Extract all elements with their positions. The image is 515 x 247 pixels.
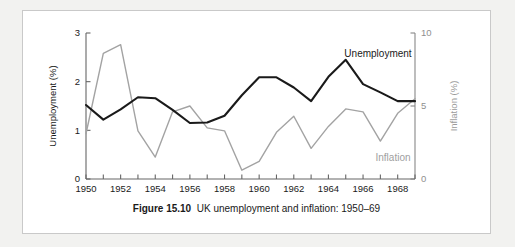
left-tick-label: 1 <box>75 125 80 136</box>
inflation-series-label: Inflation <box>375 152 410 163</box>
x-tick-label: 1958 <box>214 183 235 194</box>
right-tick-label: 5 <box>421 100 426 111</box>
x-axis-ticks <box>86 175 415 180</box>
left-tick-label: 3 <box>75 27 80 38</box>
x-tick-label: 1960 <box>249 183 270 194</box>
x-tick-label: 1962 <box>283 183 304 194</box>
left-axis-tick-labels: 0123 <box>75 27 80 184</box>
x-tick-label: 1956 <box>179 183 200 194</box>
unemployment-line <box>86 60 415 123</box>
x-tick-label: 1966 <box>352 183 373 194</box>
x-tick-label: 1968 <box>387 183 408 194</box>
x-tick-label: 1954 <box>145 183 166 194</box>
right-tick-label: 10 <box>421 27 432 38</box>
right-tick-label: 0 <box>421 173 426 184</box>
inflation-line <box>86 45 415 171</box>
y2-axis-title: Inflation (%) <box>448 81 459 132</box>
figure-caption: Figure 15.10 UK unemployment and inflati… <box>23 203 490 214</box>
figure-card: 0123 0510 195019521954195619581960196219… <box>22 10 491 234</box>
right-axis-tick-labels: 0510 <box>421 27 432 184</box>
chart-plot-area: 0123 0510 195019521954195619581960196219… <box>23 11 492 235</box>
figure-caption-text: UK unemployment and inflation: 1950–69 <box>197 203 380 214</box>
x-tick-label: 1952 <box>110 183 131 194</box>
chart-svg: 0123 0510 195019521954195619581960196219… <box>23 11 492 235</box>
figure-number: Figure 15.10 <box>133 203 191 214</box>
y-axis-title: Unemployment (%) <box>47 65 58 146</box>
x-tick-label: 1964 <box>318 183 339 194</box>
left-tick-label: 2 <box>75 76 80 87</box>
x-tick-label: 1950 <box>75 183 96 194</box>
unemployment-series-label: Unemployment <box>344 48 411 59</box>
x-axis-tick-labels: 1950195219541956195819601962196419661968 <box>75 183 408 194</box>
